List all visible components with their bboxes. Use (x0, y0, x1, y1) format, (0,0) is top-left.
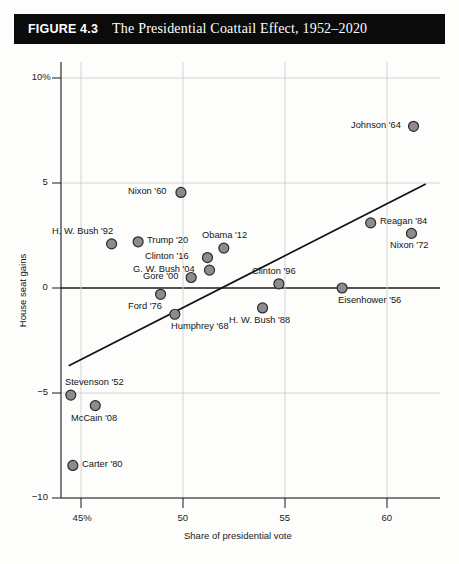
trend-line (69, 184, 426, 366)
point-label: Humphrey '68 (171, 321, 229, 331)
data-point (409, 121, 419, 131)
data-point (107, 239, 117, 249)
point-label: Ford '76 (128, 301, 162, 311)
data-point (258, 303, 268, 313)
data-point (66, 390, 76, 400)
data-point (366, 218, 376, 228)
point-label: Trump '20 (147, 235, 188, 245)
x-tick-label: 50 (177, 512, 188, 523)
point-label: Stevenson '52 (65, 377, 124, 387)
scatter-plot-svg (0, 0, 459, 564)
chart-plot-area: 10%50−5−1045%505560Johnson '64Nixon '60R… (0, 0, 459, 564)
data-point (337, 283, 347, 293)
y-tick-label: −10 (32, 491, 48, 502)
data-point (186, 273, 196, 283)
point-label: Nixon '60 (128, 186, 166, 196)
data-point (274, 279, 284, 289)
data-point (406, 228, 416, 238)
point-label: Clinton '16 (145, 251, 189, 261)
data-point (176, 187, 186, 197)
figure-root: FIGURE 4.3 The Presidential Coattail Eff… (0, 0, 459, 564)
x-tick-label: 45% (73, 512, 92, 523)
data-point (202, 253, 212, 263)
point-label: Obama '12 (202, 230, 247, 240)
data-point (90, 401, 100, 411)
data-point (68, 460, 78, 470)
point-label: Reagan '84 (380, 216, 427, 226)
y-tick-label: 5 (43, 176, 48, 187)
x-axis-title: Share of presidential vote (184, 530, 292, 541)
point-label: Gore '00 (143, 271, 178, 281)
point-label: Eisenhower '56 (338, 295, 401, 305)
y-tick-label: 0 (43, 281, 48, 292)
point-label: H. W. Bush '92 (52, 226, 113, 236)
x-tick-label: 55 (279, 512, 290, 523)
point-label: Carter '80 (82, 459, 123, 469)
data-point (156, 289, 166, 299)
point-label: Nixon '72 (390, 240, 428, 250)
data-point (170, 309, 180, 319)
y-axis-title: House seat gains (17, 254, 28, 327)
point-label: Clinton '96 (252, 266, 296, 276)
point-label: McCain '08 (71, 413, 117, 423)
x-tick-label: 60 (381, 512, 392, 523)
data-point (205, 265, 215, 275)
data-point (219, 243, 229, 253)
point-label: Johnson '64 (351, 120, 401, 130)
y-tick-label: −5 (37, 386, 48, 397)
data-point (133, 237, 143, 247)
point-label: H. W. Bush '88 (229, 315, 290, 325)
y-tick-label: 10% (32, 71, 51, 82)
